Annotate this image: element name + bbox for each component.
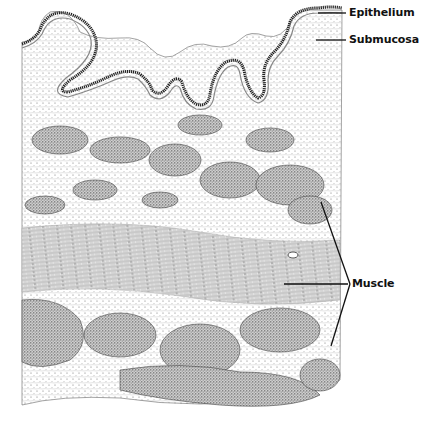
tissue-drawing [0, 0, 428, 431]
histology-figure: Epithelium Submucosa Muscle [0, 0, 428, 431]
label-muscle: Muscle [352, 277, 394, 290]
label-submucosa: Submucosa [349, 33, 419, 46]
label-epithelium: Epithelium [349, 6, 415, 19]
